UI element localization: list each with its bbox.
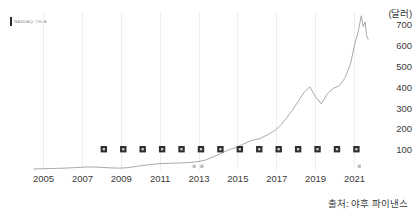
- event-marker-center: [103, 148, 105, 150]
- event-marker-center: [258, 148, 260, 150]
- event-marker-center: [355, 148, 357, 150]
- event-marker-center: [142, 148, 144, 150]
- price-line: [34, 16, 368, 169]
- x-tick-2005: 2005: [33, 174, 54, 184]
- source-note: 출처: 야후 파이낸스: [328, 196, 408, 210]
- x-tick-2007: 2007: [72, 174, 93, 184]
- y-tick-400: 400: [396, 82, 412, 91]
- plot-area: [30, 12, 370, 170]
- y-axis-unit-label: (달러): [388, 6, 412, 20]
- y-tick-600: 600: [396, 41, 412, 50]
- event-marker-center: [239, 148, 241, 150]
- legend-swatch: [10, 17, 12, 26]
- x-tick-2021: 2021: [344, 174, 365, 184]
- x-tick-2011: 2011: [150, 174, 170, 184]
- event-marker-center: [180, 148, 182, 150]
- faint-marker: [193, 165, 196, 168]
- y-tick-500: 500: [396, 62, 412, 71]
- event-marker-center: [122, 148, 124, 150]
- price-line-series: [34, 16, 368, 169]
- y-tick-700: 700: [396, 20, 412, 29]
- event-marker-center: [336, 148, 338, 150]
- event-marker-center: [200, 148, 202, 150]
- x-tick-2015: 2015: [227, 174, 248, 184]
- event-marker-center: [316, 148, 318, 150]
- event-marker-center: [161, 148, 163, 150]
- event-marker-center: [219, 148, 221, 150]
- y-tick-300: 300: [396, 103, 412, 112]
- chart-figure: (달러) NASDAQ: TSLA 2005200720092011201320…: [0, 0, 416, 216]
- x-tick-2009: 2009: [111, 174, 132, 184]
- y-tick-100: 100: [396, 145, 412, 154]
- faint-marker: [200, 165, 203, 168]
- faint-marker: [358, 165, 361, 168]
- event-marker-center: [297, 148, 299, 150]
- x-tick-2019: 2019: [305, 174, 326, 184]
- y-tick-200: 200: [396, 124, 412, 133]
- event-marker-center: [278, 148, 280, 150]
- x-tick-2013: 2013: [188, 174, 209, 184]
- chart-canvas: [30, 12, 370, 170]
- x-tick-2017: 2017: [266, 174, 287, 184]
